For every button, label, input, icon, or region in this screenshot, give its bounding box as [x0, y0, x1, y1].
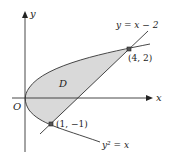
- y-axis-arrow-icon: [22, 11, 28, 18]
- origin-label: O: [13, 101, 21, 112]
- region-d-fill: [25, 49, 129, 124]
- point-1-neg1-label: (1, −1): [56, 119, 88, 129]
- point-1-neg1-marker: [49, 122, 53, 126]
- region-diagram: y x O D y = x − 2 y² = x (4, 2) (1, −1): [0, 0, 171, 164]
- region-label: D: [58, 78, 67, 89]
- x-axis-arrow-icon: [146, 95, 153, 101]
- parabola-label: y² = x: [101, 140, 129, 150]
- line-label: y = x − 2: [115, 20, 159, 30]
- point-4-2-marker: [127, 47, 131, 51]
- point-4-2-label: (4, 2): [128, 53, 152, 63]
- y-axis-label: y: [29, 8, 36, 19]
- x-axis-label: x: [156, 92, 162, 103]
